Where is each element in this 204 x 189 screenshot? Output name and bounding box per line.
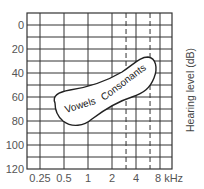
x-tick-label: 4 bbox=[133, 172, 139, 184]
y-tick-label: 120 bbox=[6, 163, 24, 175]
y-tick-label: 100 bbox=[6, 139, 24, 151]
y-tick-label: 60 bbox=[12, 91, 24, 103]
x-axis-ticks: 0.250.51248 kHz bbox=[29, 172, 183, 184]
x-tick-label: 0.5 bbox=[56, 172, 71, 184]
x-tick-label: 1 bbox=[85, 172, 91, 184]
x-tick-label: 2 bbox=[109, 172, 115, 184]
y-axis-ticks: 020406080100120 bbox=[6, 19, 24, 175]
y-axis-label: Hearing level (dB) bbox=[184, 48, 196, 132]
y-tick-label: 0 bbox=[18, 19, 24, 31]
y-tick-label: 40 bbox=[12, 67, 24, 79]
audiogram-chart: 020406080100120 0.250.51248 kHz Vowels C… bbox=[0, 0, 204, 189]
x-tick-label: 8 kHz bbox=[155, 172, 183, 184]
y-tick-label: 20 bbox=[12, 43, 24, 55]
y-tick-label: 80 bbox=[12, 115, 24, 127]
x-tick-label: 0.25 bbox=[29, 172, 50, 184]
